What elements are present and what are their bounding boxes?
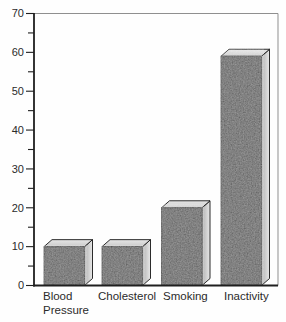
y-tick-label-0: 0 [18,279,24,291]
bar-inactivity [221,49,270,285]
bar-chart-canvas: 010203040506070BloodPressureCholesterolS… [0,0,286,322]
y-tick-label-60: 60 [12,46,24,58]
category-label-blood-pressure-line-2: Pressure [43,304,89,316]
bar-top-face-blood-pressure [44,240,93,247]
y-tick-label-50: 50 [12,85,24,97]
bar-front-face-cholesterol [102,247,143,286]
category-label-blood-pressure-line-1: Blood [43,290,72,302]
bar-smoking [162,201,211,286]
risk-factor-bar-chart-figure: 010203040506070BloodPressureCholesterolS… [0,0,286,322]
bar-side-face-inactivity [262,49,270,285]
bar-blood-pressure [44,240,93,286]
y-tick-label-70: 70 [12,7,24,19]
bar-top-face-inactivity [221,49,270,56]
y-tick-label-10: 10 [12,240,24,252]
y-tick-label-20: 20 [12,202,24,214]
category-label-inactivity: Inactivity [224,290,269,302]
category-label-smoking: Smoking [163,290,208,302]
bar-side-face-blood-pressure [85,240,93,286]
bar-side-face-smoking [202,201,210,286]
bar-top-face-cholesterol [102,240,151,247]
bar-front-face-blood-pressure [44,247,85,286]
bar-cholesterol [102,240,151,286]
bar-front-face-inactivity [221,56,262,285]
bar-front-face-smoking [162,208,203,286]
y-tick-label-30: 30 [12,163,24,175]
category-label-cholesterol: Cholesterol [98,290,156,302]
bar-side-face-cholesterol [143,240,151,286]
bar-top-face-smoking [162,201,211,208]
y-tick-label-40: 40 [12,124,24,136]
